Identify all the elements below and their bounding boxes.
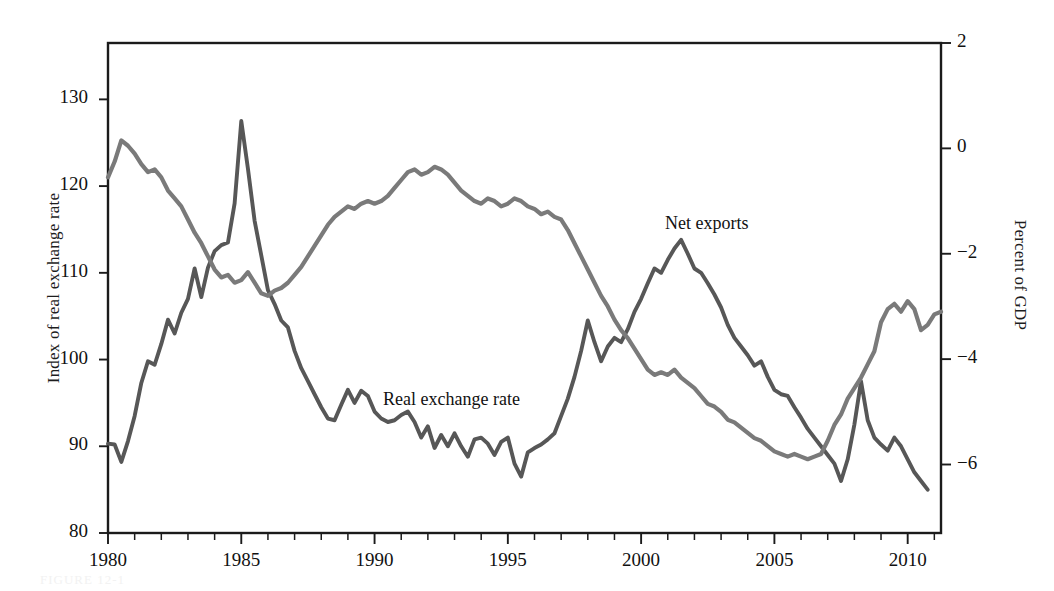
chart-plot	[0, 0, 1054, 591]
y-left-tick-label: 100	[30, 347, 88, 369]
y-right-tick-label: 2	[957, 30, 1015, 52]
y-right-tick-label: −2	[957, 241, 1015, 263]
x-tick-label: 1985	[201, 549, 281, 571]
y-left-tick-label: 90	[30, 433, 88, 455]
y-left-tick-label: 130	[30, 86, 88, 108]
y-left-tick-label: 110	[30, 260, 88, 282]
y-right-tick-label: 0	[957, 135, 1015, 157]
series-label-real-exchange-rate: Real exchange rate	[383, 389, 520, 410]
x-tick-label: 1990	[335, 549, 415, 571]
y-left-tick-label: 120	[30, 173, 88, 195]
y-right-tick-label: −4	[957, 346, 1015, 368]
x-tick-label: 2005	[734, 549, 814, 571]
x-tick-label: 1980	[68, 549, 148, 571]
x-tick-label: 1995	[468, 549, 548, 571]
y-left-tick-label: 80	[30, 520, 88, 542]
y-right-tick-label: −6	[957, 452, 1015, 474]
series-label-net-exports: Net exports	[665, 213, 748, 234]
x-tick-label: 2010	[868, 549, 948, 571]
figure-root: Index of real exchange rate Percent of G…	[0, 0, 1054, 591]
series-line-real-exchange-rate	[108, 121, 928, 490]
figure-caption: FIGURE 12-1	[40, 572, 125, 588]
x-tick-label: 2000	[601, 549, 681, 571]
series-line-net-exports	[108, 140, 941, 459]
